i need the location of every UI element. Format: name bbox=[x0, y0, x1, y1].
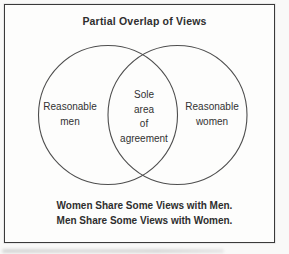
right-circle-label: Reasonable women bbox=[185, 100, 238, 129]
overlap-label: Sole area of agreement bbox=[120, 88, 168, 146]
left-circle-label-line1: Reasonable bbox=[43, 100, 96, 115]
right-circle-label-line1: Reasonable bbox=[185, 100, 238, 115]
caption-line-1: Women Share Some Views with Men. bbox=[0, 199, 289, 214]
overlap-label-line3: of bbox=[120, 117, 168, 132]
overlap-label-line4: agreement bbox=[120, 132, 168, 147]
left-circle-label: Reasonable men bbox=[43, 100, 96, 129]
caption-line-2: Men Share Some Views with Women. bbox=[0, 214, 289, 229]
overlap-label-line2: area bbox=[120, 103, 168, 118]
overlap-label-line1: Sole bbox=[120, 88, 168, 103]
caption: Women Share Some Views with Men. Men Sha… bbox=[0, 199, 289, 228]
right-circle-label-line2: women bbox=[185, 115, 238, 130]
scan-artifact-band bbox=[2, 249, 224, 253]
left-circle-label-line2: men bbox=[43, 115, 96, 130]
scanned-page: Partial Overlap of Views Reasonable men … bbox=[0, 0, 289, 254]
